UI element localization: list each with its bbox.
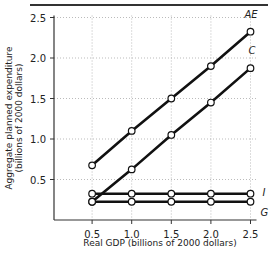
data-point-c: [247, 65, 254, 72]
data-point-c: [168, 132, 175, 139]
series-labels: AECIG: [244, 9, 269, 218]
y-tick-label: 1.5: [30, 94, 46, 105]
y-tick-label: 2.5: [30, 13, 46, 24]
data-point-ae: [89, 162, 96, 169]
y-axis-label-line1: Aggregate planned expenditure: [4, 46, 14, 190]
tick-labels: 0.51.01.52.02.50.51.01.52.02.5: [30, 13, 258, 241]
data-point-ae: [128, 128, 135, 135]
series-label-i: I: [263, 187, 266, 198]
data-point-i: [89, 190, 96, 197]
data-point-ae: [208, 63, 215, 70]
data-point-i: [168, 190, 175, 197]
data-point-i: [208, 190, 215, 197]
y-tick-label: 0.5: [30, 175, 46, 186]
series-label-ae: AE: [244, 9, 259, 20]
x-axis-label: Real GDP (billions of 2000 dollars): [83, 238, 236, 248]
data-point-g: [168, 198, 175, 205]
data-point-ae: [168, 95, 175, 102]
data-point-c: [208, 99, 215, 106]
data-point-g: [89, 198, 96, 205]
chart-container: 0.51.01.52.02.50.51.01.52.02.5 AECIG Rea…: [0, 0, 270, 257]
gridlines: [54, 16, 257, 221]
series-label-c: C: [249, 45, 256, 56]
y-tick-label: 1.0: [30, 134, 46, 145]
data-point-g: [128, 198, 135, 205]
series-label-g: G: [261, 207, 269, 218]
y-tick-label: 2.0: [30, 53, 46, 64]
data-point-i: [247, 190, 254, 197]
data-point-i: [128, 190, 135, 197]
x-tick-label: 2.5: [243, 229, 259, 240]
data-point-g: [208, 198, 215, 205]
data-point-c: [128, 166, 135, 173]
y-axis-label-line2: (billions of 2000 dollars): [14, 64, 24, 173]
y-axis-label: Aggregate planned expenditure (billions …: [4, 46, 24, 190]
data-point-g: [247, 198, 254, 205]
aggregate-expenditure-chart: 0.51.01.52.02.50.51.01.52.02.5 AECIG Rea…: [0, 0, 270, 257]
data-point-ae: [247, 28, 254, 35]
